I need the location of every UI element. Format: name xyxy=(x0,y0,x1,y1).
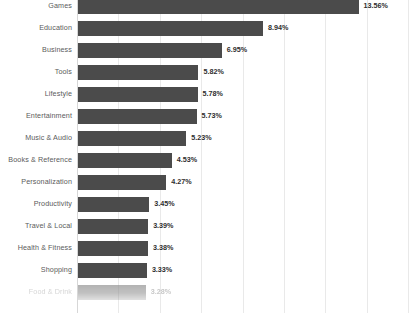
bar xyxy=(78,109,197,124)
bar xyxy=(78,131,186,146)
category-label: Health & Fitness xyxy=(0,243,72,253)
bar xyxy=(78,285,146,300)
bar-group: 3.45% xyxy=(78,197,175,212)
bar-row: Education8.94% xyxy=(0,17,408,39)
category-label: Books & Reference xyxy=(0,155,72,165)
value-label: 3.39% xyxy=(153,221,173,231)
category-label: Productivity xyxy=(0,199,72,209)
bar-group: 5.82% xyxy=(78,65,224,80)
bar-row: Personalization4.27% xyxy=(0,171,408,193)
bar-group: 3.38% xyxy=(78,241,173,256)
value-label: 13.56% xyxy=(364,1,388,11)
value-label: 3.33% xyxy=(152,265,172,275)
value-label: 6.95% xyxy=(227,45,247,55)
bar-group: 3.28% xyxy=(78,285,171,300)
bar-group: 6.95% xyxy=(78,43,247,58)
bar-row: Travel & Local3.39% xyxy=(0,215,408,237)
value-label: 4.27% xyxy=(171,177,191,187)
bar-group: 8.94% xyxy=(78,21,288,36)
bar-row: Tools5.82% xyxy=(0,61,408,83)
category-label: Education xyxy=(0,23,72,33)
bar-group: 5.23% xyxy=(78,131,212,146)
bar-group: 5.73% xyxy=(78,109,222,124)
bar xyxy=(78,65,198,80)
bar-row: Games13.56% xyxy=(0,0,408,17)
category-label: Travel & Local xyxy=(0,221,72,231)
bar xyxy=(78,21,263,36)
bar xyxy=(78,153,172,168)
bar-row: Lifestyle5.78% xyxy=(0,83,408,105)
bar-group: 3.33% xyxy=(78,263,172,278)
bar xyxy=(78,175,166,190)
category-label: Food & Drink xyxy=(0,287,72,297)
value-label: 5.73% xyxy=(202,111,222,121)
value-label: 5.23% xyxy=(191,133,211,143)
bar-row: Business6.95% xyxy=(0,39,408,61)
category-label: Games xyxy=(0,1,72,11)
category-label: Music & Audio xyxy=(0,133,72,143)
value-label: 3.45% xyxy=(154,199,174,209)
value-label: 5.78% xyxy=(203,89,223,99)
bar-row: Productivity3.45% xyxy=(0,193,408,215)
bar-group: 4.53% xyxy=(78,153,197,168)
value-label: 8.94% xyxy=(268,23,288,33)
value-label: 3.28% xyxy=(151,287,171,297)
category-label: Tools xyxy=(0,67,72,77)
bar xyxy=(78,197,149,212)
bar-row: Health & Fitness3.38% xyxy=(0,237,408,259)
bar xyxy=(78,43,222,58)
bar-row: Music & Audio5.23% xyxy=(0,127,408,149)
bar-row: Books & Reference4.53% xyxy=(0,149,408,171)
bar xyxy=(78,87,198,102)
category-label: Shopping xyxy=(0,265,72,275)
category-label: Personalization xyxy=(0,177,72,187)
value-label: 5.82% xyxy=(203,67,223,77)
value-label: 4.53% xyxy=(177,155,197,165)
category-label: Business xyxy=(0,45,72,55)
value-label: 3.38% xyxy=(153,243,173,253)
bar xyxy=(78,263,147,278)
bar-row: Entertainment5.73% xyxy=(0,105,408,127)
bar-group: 13.56% xyxy=(78,0,388,14)
bar-group: 3.39% xyxy=(78,219,174,234)
bar-group: 5.78% xyxy=(78,87,223,102)
bar-row: Food & Drink3.28% xyxy=(0,281,408,303)
bar-group: 4.27% xyxy=(78,175,192,190)
category-label: Entertainment xyxy=(0,111,72,121)
category-label: Lifestyle xyxy=(0,89,72,99)
bar xyxy=(78,0,359,14)
bar xyxy=(78,241,148,256)
bar-row: Shopping3.33% xyxy=(0,259,408,281)
bar xyxy=(78,219,148,234)
